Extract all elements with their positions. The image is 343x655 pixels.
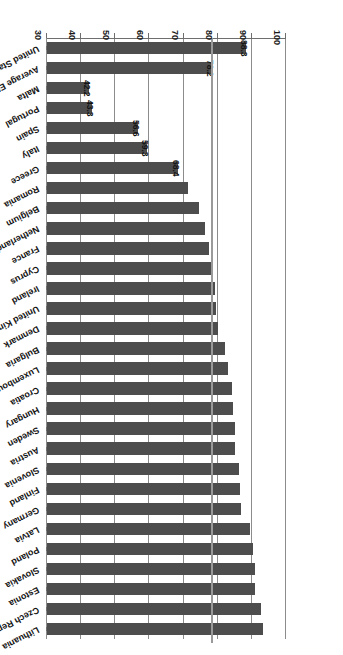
bar [47,382,232,394]
axis-tick-label-50: 50 [101,30,111,40]
chart-canvas: United States88.3Average EU-2878.2Malta4… [0,0,343,655]
bar-row [47,142,286,154]
axis-tick-label-70: 70 [170,30,180,40]
bar [47,162,178,174]
bar [47,222,205,234]
bar-row [47,362,286,374]
bar-row [47,322,286,334]
bar-row [47,563,286,575]
category-tick [46,447,47,451]
category-tick [46,527,47,531]
category-tick [46,507,47,511]
category-tick [46,66,47,70]
bar-row [47,583,286,595]
bar [47,62,212,74]
bar [47,282,215,294]
axis-tick-label-90: 90 [238,30,248,40]
bar-row [47,62,286,74]
bar [47,142,147,154]
bar-row [47,422,286,434]
bar-row [47,42,286,54]
bar-row [47,623,286,635]
bar [47,623,263,635]
category-tick [46,587,47,591]
category-tick [46,246,47,250]
category-label: Latvia [13,525,41,546]
category-tick [46,627,47,631]
category-tick [46,126,47,130]
bar [47,362,228,374]
category-tick [46,326,47,330]
category-tick [46,146,47,150]
bar-row [47,603,286,615]
bar-row [47,503,286,515]
bar-row [47,302,286,314]
category-tick [46,306,47,310]
bar-row [47,182,286,194]
category-tick [46,266,47,270]
bar-row [47,523,286,535]
bar-row [47,282,286,294]
bar-row [47,262,286,274]
bar [47,122,138,134]
bar-row [47,342,286,354]
bar-row [47,543,286,555]
category-tick [46,487,47,491]
category-tick [46,367,47,371]
axis-tick-label-40: 40 [67,30,77,40]
bar [47,242,209,254]
bar-row [47,242,286,254]
bar [47,523,250,535]
bar [47,563,255,575]
axis-baseline [47,38,286,39]
axis-tick-label-60: 60 [135,30,145,40]
bar-value-label: 78.2 [205,60,215,77]
category-tick [46,567,47,571]
axis-tick-label-80: 80 [204,30,214,40]
category-tick [46,607,47,611]
category-tick [46,467,47,471]
category-tick [46,86,47,90]
axis-tick-label-30: 30 [33,30,43,40]
bar-row [47,202,286,214]
category-tick [46,226,47,230]
category-tick [46,166,47,170]
bar [47,402,233,414]
bar-value-label: 68.4 [171,160,181,177]
category-tick [46,407,47,411]
category-label: Malta [16,84,41,103]
bar-row [47,382,286,394]
bar-value-label: 88.3 [239,40,249,57]
bar-value-label: 42.2 [82,80,92,97]
category-tick [46,427,47,431]
category-tick [46,286,47,290]
bar [47,322,218,334]
plot-area: United States88.3Average EU-2878.2Malta4… [47,38,286,639]
bar-row [47,443,286,455]
chart-figure: United States88.3Average EU-2878.2Malta4… [0,0,343,655]
bar [47,422,235,434]
bar-row [47,463,286,475]
category-tick [46,206,47,210]
category-label: Spain [15,124,41,144]
bar-value-label: 43.3 [85,100,95,117]
category-tick [46,46,47,50]
category-tick [46,347,47,351]
bar [47,262,212,274]
category-tick [46,186,47,190]
category-tick [46,387,47,391]
bar [47,603,261,615]
bar-row [47,483,286,495]
bar-row [47,162,286,174]
bars-layer: United States88.3Average EU-2878.2Malta4… [47,38,286,639]
category-label: Italy [20,144,41,161]
bar [47,202,199,214]
bar-value-label: 56.6 [131,120,141,137]
bar-value-label: 59.3 [140,140,150,157]
bar-row [47,122,286,134]
bar [47,182,188,194]
bar-row [47,402,286,414]
category-tick [46,547,47,551]
bar-row [47,102,286,114]
category-tick [46,106,47,110]
